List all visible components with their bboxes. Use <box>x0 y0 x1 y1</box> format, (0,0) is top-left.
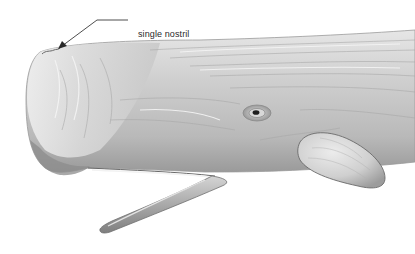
eye <box>243 105 271 121</box>
annotation-label-single-nostril: single nostril <box>138 29 189 39</box>
jaw-highlight <box>108 180 205 226</box>
whale-drawing <box>0 0 415 254</box>
lower-jaw <box>100 176 227 233</box>
whale-illustration: single nostril <box>0 0 415 254</box>
